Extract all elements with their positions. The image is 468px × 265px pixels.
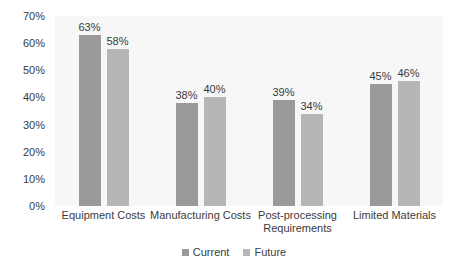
bar-future xyxy=(301,114,323,206)
legend-label: Current xyxy=(193,246,230,258)
bar-future xyxy=(398,81,420,206)
legend-item-future[interactable]: Future xyxy=(243,246,286,258)
x-axis-category-label-line: Limited Materials xyxy=(336,209,453,222)
bar-future xyxy=(204,97,226,206)
bars-layer: 63%58%38%40%39%34%45%46% xyxy=(55,16,443,206)
bar-chart: 0%10%20%30%40%50%60%70% 63%58%38%40%39%3… xyxy=(0,0,468,265)
bar-value-label: 58% xyxy=(98,35,138,47)
legend-label: Future xyxy=(254,246,286,258)
y-axis-tick-label: 20% xyxy=(0,147,45,158)
x-axis-category-labels: Equipment CostsManufacturing CostsPost-p… xyxy=(55,209,443,243)
y-axis-tick-label: 40% xyxy=(0,92,45,103)
bar-current xyxy=(79,35,101,206)
y-axis-tick-label: 10% xyxy=(0,174,45,185)
y-axis-tick-label: 0% xyxy=(0,201,45,212)
y-axis: 0%10%20%30%40%50%60%70% xyxy=(0,16,50,206)
y-axis-tick-label: 30% xyxy=(0,120,45,131)
y-axis-tick-label: 60% xyxy=(0,38,45,49)
bar-current xyxy=(370,84,392,206)
legend-swatch-icon xyxy=(182,249,189,256)
legend-swatch-icon xyxy=(243,249,250,256)
bar-value-label: 63% xyxy=(70,21,110,33)
x-axis-category-label-line: Requirements xyxy=(239,222,356,235)
bar-current xyxy=(273,100,295,206)
bar-current xyxy=(176,103,198,206)
y-axis-tick-label: 50% xyxy=(0,65,45,76)
bar-future xyxy=(107,49,129,206)
y-axis-tick-label: 70% xyxy=(0,11,45,22)
bar-value-label: 40% xyxy=(195,83,235,95)
chart-legend: CurrentFuture xyxy=(0,246,468,258)
legend-item-current[interactable]: Current xyxy=(182,246,230,258)
x-axis-category-label: Limited Materials xyxy=(336,209,453,222)
bar-value-label: 46% xyxy=(389,67,429,79)
bar-value-label: 39% xyxy=(264,86,304,98)
bar-value-label: 34% xyxy=(292,100,332,112)
